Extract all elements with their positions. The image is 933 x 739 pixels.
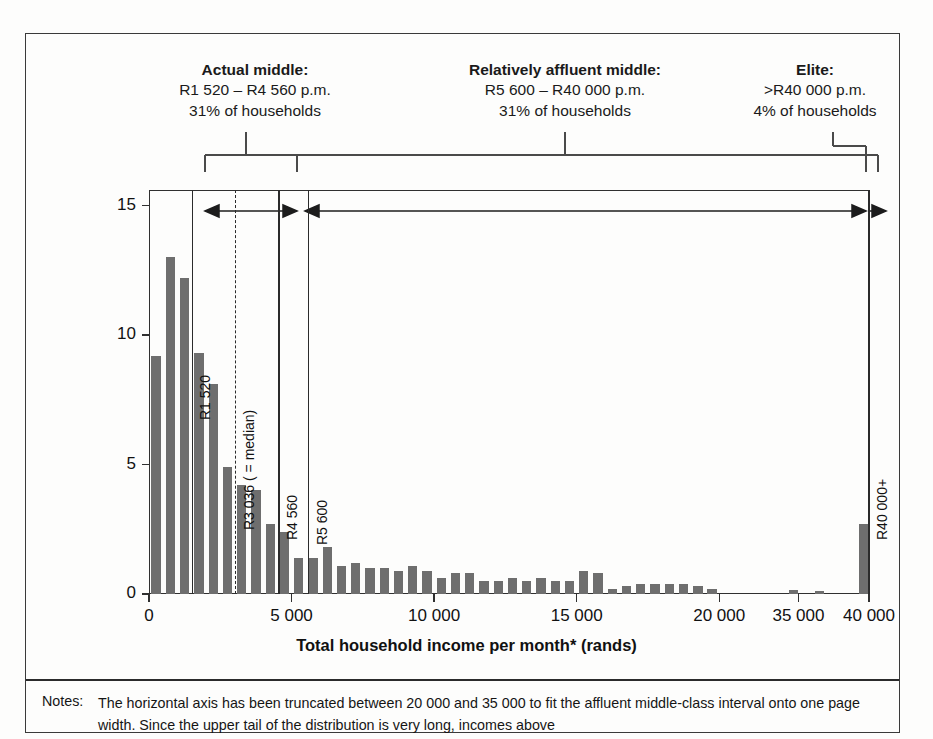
histogram-bar — [180, 278, 189, 594]
histogram-bar — [650, 584, 659, 594]
marker-label-r5600: R5 600 — [314, 500, 330, 545]
histogram-bar — [593, 573, 602, 594]
histogram-bar — [565, 581, 574, 594]
marker-line-r5600 — [308, 190, 309, 594]
category-range: R5 600 – R40 000 p.m. — [400, 80, 730, 100]
histogram-bar — [465, 573, 474, 594]
histogram-bar — [408, 566, 417, 594]
category-range: >R40 000 p.m. — [735, 80, 895, 100]
x-axis-tick — [798, 594, 799, 602]
x-axis-tick — [433, 594, 434, 602]
histogram-bar — [223, 467, 232, 594]
x-axis-tick-label: 15 000 — [532, 606, 622, 626]
y-axis-tick — [142, 334, 149, 335]
histogram-bar — [508, 578, 517, 594]
marker-label-r1520: R1 520 — [197, 375, 213, 420]
x-axis-tick-label: 10 000 — [389, 606, 479, 626]
x-axis-tick — [291, 594, 292, 602]
x-axis-tick-label: 40 000 — [824, 606, 914, 626]
y-axis-tick-label: 15 — [96, 195, 136, 215]
marker-label-r40000: R40 000+ — [874, 479, 890, 540]
histogram-bar — [522, 581, 531, 594]
category-share: 31% of households — [130, 101, 380, 121]
x-axis-tick — [719, 594, 720, 602]
marker-line-r4560 — [278, 190, 279, 594]
histogram-bar — [494, 581, 503, 594]
y-axis-tick — [142, 205, 149, 206]
histogram-bar — [707, 589, 716, 594]
marker-line-r40000 — [868, 190, 869, 594]
x-axis-tick-label: 20 000 — [674, 606, 764, 626]
histogram-bar — [365, 568, 374, 594]
notes-label: Notes: — [42, 693, 83, 709]
y-axis-tick-label: 5 — [96, 454, 136, 474]
histogram-bar — [394, 571, 403, 594]
histogram-bar — [479, 581, 488, 594]
histogram-bar — [551, 581, 560, 594]
category-header-elite: Elite: >R40 000 p.m. 4% of households — [735, 60, 895, 121]
histogram-bar — [622, 586, 631, 594]
y-axis-tick-label: 10 — [96, 324, 136, 344]
x-axis-tick — [148, 594, 149, 602]
x-axis-title: Total household income per month* (rands… — [0, 636, 933, 655]
histogram-bar — [280, 532, 289, 594]
histogram-bar — [679, 584, 688, 594]
x-axis-tick-label: 5 000 — [247, 606, 337, 626]
histogram-bar — [665, 584, 674, 594]
category-range: R1 520 – R4 560 p.m. — [130, 80, 380, 100]
category-title: Relatively affluent middle: — [400, 60, 730, 80]
x-axis-tick — [576, 594, 577, 602]
histogram-bar — [608, 589, 617, 594]
histogram-bar — [151, 356, 160, 594]
x-axis-tick — [868, 594, 869, 602]
marker-line-r3036 — [235, 190, 236, 594]
histogram-bar — [451, 573, 460, 594]
x-axis-tick-label: 0 — [104, 606, 194, 626]
notes-divider — [26, 679, 899, 681]
histogram-bar — [636, 584, 645, 594]
histogram-bar — [579, 571, 588, 594]
histogram-bar — [266, 524, 275, 594]
category-share: 4% of households — [735, 101, 895, 121]
histogram-bar — [337, 566, 346, 594]
histogram-bar — [380, 568, 389, 594]
histogram-bar — [789, 590, 798, 594]
category-title: Elite: — [735, 60, 895, 80]
marker-label-r4560: R4 560 — [284, 495, 300, 540]
histogram-bar — [536, 578, 545, 594]
histogram-bar — [422, 571, 431, 594]
histogram-bar — [437, 578, 446, 594]
histogram-bar — [166, 257, 175, 594]
histogram-bar — [308, 558, 317, 594]
histogram-bar — [693, 586, 702, 594]
marker-line-r1520 — [192, 190, 193, 594]
notes-text: The horizontal axis has been truncated b… — [98, 692, 887, 737]
histogram-bar — [815, 591, 824, 594]
marker-label-r3036: R3 036 ( = median) — [241, 410, 257, 530]
bars-layer — [149, 190, 869, 594]
histogram-bar — [323, 547, 332, 594]
histogram-bar — [351, 563, 360, 594]
y-axis-tick — [142, 464, 149, 465]
category-header-relatively-affluent-middle: Relatively affluent middle: R5 600 – R40… — [400, 60, 730, 121]
histogram-bar — [294, 558, 303, 594]
category-title: Actual middle: — [130, 60, 380, 80]
category-share: 31% of households — [400, 101, 730, 121]
y-axis-tick-label: 0 — [96, 583, 136, 603]
notes-block: Notes: The horizontal axis has been trun… — [42, 690, 887, 737]
category-header-actual-middle: Actual middle: R1 520 – R4 560 p.m. 31% … — [130, 60, 380, 121]
